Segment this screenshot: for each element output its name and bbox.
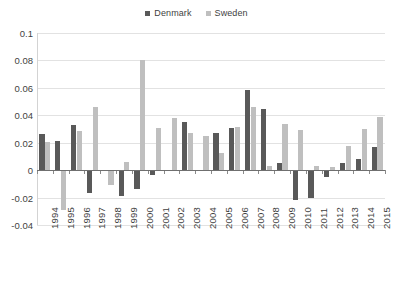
bar-sweden-2003 <box>188 133 193 170</box>
x-tick-label: 2004 <box>207 207 218 229</box>
bar-sweden-1994 <box>45 142 50 170</box>
bar-sweden-1999 <box>124 162 129 170</box>
bar-sweden-2013 <box>346 146 351 170</box>
bar-denmark-2000 <box>134 170 139 189</box>
bar-sweden-2010 <box>298 130 303 170</box>
legend-label-denmark: Denmark <box>154 8 191 18</box>
bar-denmark-2006 <box>229 128 234 170</box>
chart-legend: Denmark Sweden <box>0 8 393 18</box>
bar-denmark-2011 <box>308 170 313 198</box>
x-tick-label: 1995 <box>65 207 76 229</box>
bar-chart: Denmark Sweden 0.10.080.060.040.020-0.02… <box>0 0 393 299</box>
bar-denmark-1995 <box>55 141 60 170</box>
x-tick-label: 1997 <box>96 207 107 229</box>
x-tick-label: 1998 <box>112 207 123 229</box>
bar-denmark-2003 <box>182 122 187 170</box>
x-axis-tick-labels: 1994199519961997199819992000200120022003… <box>37 225 385 285</box>
x-tick-label: 2002 <box>175 207 186 229</box>
zero-axis-line <box>37 170 385 171</box>
bar-sweden-2014 <box>362 129 367 170</box>
legend-entry-denmark: Denmark <box>145 8 191 18</box>
legend-swatch-sweden <box>206 11 211 16</box>
y-tick-label: 0.02 <box>0 137 33 148</box>
x-tick-label: 1996 <box>81 207 92 229</box>
y-tick-label: 0 <box>0 165 33 176</box>
y-tick-label: 0.06 <box>0 82 33 93</box>
bar-denmark-1996 <box>71 125 76 170</box>
bar-sweden-2002 <box>172 118 177 170</box>
y-tick-label: 0.08 <box>0 55 33 66</box>
bar-sweden-2009 <box>282 124 287 170</box>
x-tick-label: 2006 <box>239 207 250 229</box>
bar-denmark-2015 <box>372 147 377 170</box>
x-tick-label: 2014 <box>365 207 376 229</box>
x-tick-label: 2012 <box>334 207 345 229</box>
x-tick-label: 2011 <box>318 208 329 229</box>
x-tick-mark <box>385 170 386 174</box>
x-tick-label: 2010 <box>302 207 313 229</box>
x-tick-label: 1999 <box>128 207 139 229</box>
x-tick-label: 2001 <box>160 207 171 229</box>
x-tick-label: 2005 <box>223 207 234 229</box>
bar-denmark-1994 <box>39 134 44 170</box>
legend-swatch-denmark <box>145 11 150 16</box>
x-tick-label: 2003 <box>191 207 202 229</box>
bar-sweden-2015 <box>377 117 382 170</box>
bar-denmark-2013 <box>340 163 345 170</box>
y-tick-label: 0.04 <box>0 110 33 121</box>
x-tick-label: 2000 <box>144 207 155 229</box>
bar-sweden-2005 <box>219 153 224 171</box>
bar-denmark-1999 <box>119 170 124 196</box>
y-tick-label: -0.04 <box>0 220 33 231</box>
bar-denmark-2007 <box>245 90 250 171</box>
legend-label-sweden: Sweden <box>215 8 248 18</box>
y-tick-label: 0.1 <box>0 28 33 39</box>
y-tick-label: -0.02 <box>0 192 33 203</box>
plot-area <box>37 33 385 225</box>
bar-denmark-2014 <box>356 159 361 170</box>
bar-sweden-2004 <box>203 136 208 170</box>
x-tick-label: 2015 <box>381 207 392 229</box>
bar-sweden-2007 <box>251 107 256 170</box>
x-tick-label: 2013 <box>349 207 360 229</box>
x-tick-label: 1994 <box>49 207 60 229</box>
bar-sweden-2001 <box>156 128 161 170</box>
bar-denmark-2010 <box>293 170 298 199</box>
bar-sweden-1996 <box>77 131 82 170</box>
x-tick-label: 2009 <box>286 207 297 229</box>
bars-layer <box>37 33 385 225</box>
bar-sweden-2006 <box>235 127 240 170</box>
x-tick-label: 2007 <box>255 207 266 229</box>
bar-sweden-1995 <box>61 170 66 209</box>
bar-denmark-1997 <box>87 170 92 193</box>
bar-denmark-2009 <box>277 163 282 170</box>
bar-sweden-1997 <box>93 107 98 170</box>
bar-sweden-1998 <box>108 170 113 185</box>
x-tick-label: 2008 <box>270 207 281 229</box>
legend-entry-sweden: Sweden <box>206 8 248 18</box>
bar-sweden-2000 <box>140 60 145 170</box>
bar-denmark-2008 <box>261 109 266 170</box>
bar-denmark-2005 <box>213 133 218 170</box>
